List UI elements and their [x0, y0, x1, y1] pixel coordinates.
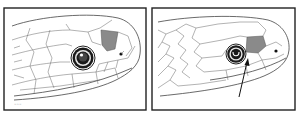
snake-head-comparison-illustration: ~~~ [0, 0, 299, 115]
left-panel: ~~~ [4, 8, 146, 110]
figure: ~~~ [0, 0, 299, 115]
right-eye [226, 44, 246, 64]
right-nostril [274, 49, 277, 52]
right-panel [152, 8, 295, 110]
left-eye [71, 46, 95, 70]
left-signature: ~~~ [14, 102, 22, 106]
